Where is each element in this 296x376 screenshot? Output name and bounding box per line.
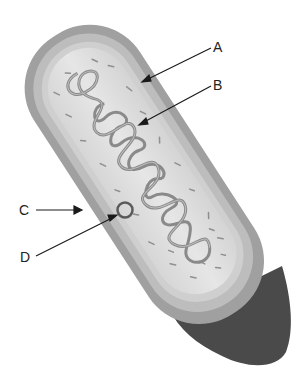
label-b: B: [213, 78, 222, 92]
arrow-d: [36, 218, 112, 256]
arrow-c-head: [74, 206, 82, 214]
cell-body: [2, 2, 291, 366]
label-a: A: [213, 40, 222, 54]
bacterial-cell-diagram: A B C D: [0, 0, 296, 376]
arrow-a: [146, 48, 211, 80]
label-c: C: [19, 203, 29, 217]
cell-illustration: [0, 0, 296, 376]
label-d: D: [20, 250, 30, 264]
